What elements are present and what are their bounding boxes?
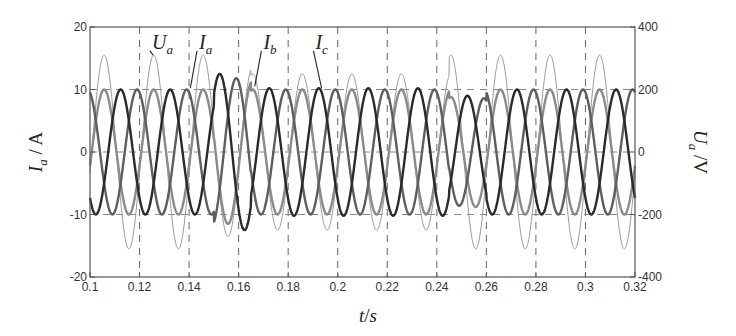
y-right-title-unit: /V: [690, 150, 711, 174]
y-left-tick-label: -10: [70, 208, 88, 222]
y-right-tick-label: -400: [638, 270, 662, 284]
chart-figure: 0.10.120.140.160.180.20.220.240.260.280.…: [0, 0, 736, 336]
x-tick-label: 0.2: [329, 280, 346, 294]
x-tick-label: 0.16: [227, 280, 251, 294]
x-tick-label: 0.3: [577, 280, 594, 294]
annotation-label-ic: Ic: [314, 31, 328, 57]
x-tick-label: 0.24: [425, 280, 449, 294]
annotation-label-ia: Ia: [198, 31, 213, 57]
x-tick-label: 0.26: [475, 280, 499, 294]
annotation-leader-ic: [313, 51, 321, 88]
y-left-title-unit: / A: [25, 132, 46, 160]
annotation-leader-ia: [190, 51, 197, 88]
annotation-leader-ib: [255, 51, 262, 87]
y-axis-left-title: Ia / A: [25, 132, 50, 174]
y-right-tick-label: 0: [638, 145, 645, 159]
x-tick-label: 0.18: [277, 280, 301, 294]
x-title-unit: s: [370, 305, 377, 326]
x-tick-label: 0.28: [524, 280, 548, 294]
annotation-label-ua: Ua: [152, 31, 173, 57]
y-left-tick-label: 20: [74, 20, 88, 34]
x-tick-label: 0.14: [177, 280, 201, 294]
y-right-tick-label: -200: [638, 208, 662, 222]
y-left-tick-label: 10: [74, 83, 88, 97]
x-tick-label: 0.22: [376, 280, 400, 294]
y-right-tick-label: 200: [638, 83, 658, 97]
y-left-tick-label: 0: [80, 145, 87, 159]
annotation-label-ib: Ib: [262, 31, 277, 57]
x-axis-title: t/s: [359, 305, 377, 326]
y-axis-right-title: Ua /V: [686, 130, 711, 174]
y-right-tick-label: 400: [638, 20, 658, 34]
y-left-tick-label: -20: [70, 270, 88, 284]
x-tick-label: 0.12: [128, 280, 152, 294]
